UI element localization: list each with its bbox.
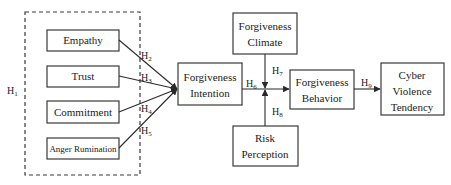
h4-label: H4: [141, 103, 152, 116]
svg-text:Forgiveness: Forgiveness: [296, 76, 349, 88]
h9-label: H9: [361, 77, 372, 90]
svg-text:Tendency: Tendency: [391, 101, 434, 113]
node-commitment: Commitment: [47, 101, 119, 123]
svg-text:Behavior: Behavior: [302, 92, 343, 104]
research-model-diagram: H1 Empathy Trust Commitment Anger Rumina…: [0, 0, 451, 185]
svg-text:Cyber: Cyber: [399, 69, 426, 81]
h1-label: H1: [7, 85, 18, 98]
node-cyber-violence-tendency: Cyber Violence Tendency: [381, 63, 444, 115]
h2-label: H2: [141, 50, 152, 63]
svg-text:Commitment: Commitment: [54, 106, 112, 118]
svg-text:Forgiveness: Forgiveness: [184, 71, 237, 83]
svg-text:Climate: Climate: [248, 36, 283, 48]
node-risk-perception: Risk Perception: [233, 126, 298, 166]
node-empathy: Empathy: [47, 30, 119, 51]
svg-text:Perception: Perception: [241, 148, 289, 160]
node-trust: Trust: [47, 66, 119, 87]
node-anger-rumination: Anger Rumination: [47, 138, 119, 159]
svg-text:Risk: Risk: [255, 132, 276, 144]
node-forgiveness-behavior: Forgiveness Behavior: [290, 70, 354, 109]
h3-label: H3: [141, 72, 152, 85]
svg-text:Intention: Intention: [190, 87, 230, 99]
svg-text:Anger Rumination: Anger Rumination: [49, 144, 117, 154]
h8-label: H8: [272, 106, 283, 119]
svg-text:Empathy: Empathy: [63, 34, 103, 46]
h5-label: H5: [141, 125, 152, 138]
node-forgiveness-intention: Forgiveness Intention: [178, 63, 242, 105]
h7-label: H7: [272, 65, 283, 78]
edge-h5: [119, 89, 177, 148]
svg-text:Trust: Trust: [72, 70, 95, 82]
svg-text:Violence: Violence: [392, 85, 431, 97]
svg-text:Forgiveness: Forgiveness: [239, 20, 292, 32]
node-forgiveness-climate: Forgiveness Climate: [233, 13, 297, 54]
